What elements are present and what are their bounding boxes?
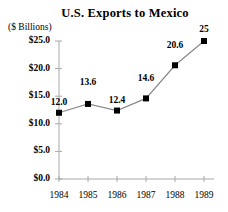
y-tick-label: $0.0 xyxy=(14,173,50,183)
data-point-label: 13.6 xyxy=(73,77,103,87)
data-point-marker xyxy=(85,101,91,107)
y-tick-label: $10.0 xyxy=(14,118,50,128)
data-point-label: 25 xyxy=(189,24,219,34)
data-point-marker xyxy=(56,110,62,116)
y-tick-label: $25.0 xyxy=(14,35,50,45)
data-point-label: 12.0 xyxy=(44,97,74,107)
x-tick-label: 1989 xyxy=(187,190,221,200)
data-point-label: 14.6 xyxy=(131,73,161,83)
data-point-marker xyxy=(114,108,120,114)
y-tick-label: $5.0 xyxy=(14,145,50,155)
chart-container: U.S. Exports to Mexico ($ Billions) xyxy=(0,0,228,212)
data-point-label: 12.4 xyxy=(102,95,132,105)
data-point-label: 20.6 xyxy=(160,40,190,50)
data-point-marker xyxy=(172,62,178,68)
y-tick-label: $20.0 xyxy=(14,63,50,73)
data-point-marker xyxy=(143,95,149,101)
data-point-marker xyxy=(201,38,207,44)
